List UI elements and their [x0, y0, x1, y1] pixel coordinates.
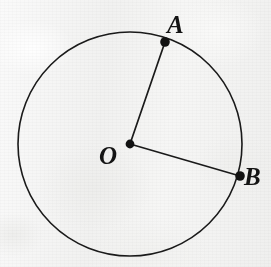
geometry-figure: A B O	[0, 0, 271, 267]
point-label-o: O	[99, 143, 117, 168]
radius-ob-line	[130, 144, 240, 176]
point-label-a: A	[167, 12, 184, 37]
point-label-b: B	[244, 164, 261, 189]
radius-oa-line	[130, 42, 165, 144]
diagram-canvas	[0, 0, 271, 267]
point-dot-O	[126, 140, 135, 149]
point-dot-A	[160, 37, 170, 47]
